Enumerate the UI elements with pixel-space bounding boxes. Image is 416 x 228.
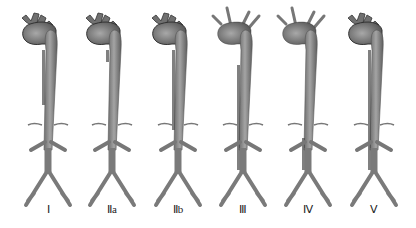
type-label: Ⅱa [107, 203, 117, 216]
aorta-type-3 [152, 13, 200, 205]
aorta-type-5 [278, 8, 330, 205]
type-label: Ⅱb [173, 203, 184, 216]
type-label: Ⅴ [370, 203, 378, 216]
aorta-type-2 [86, 13, 134, 205]
aorta-type-4 [213, 8, 265, 205]
type-label: Ⅰ [47, 203, 50, 216]
aorta-type-6 [348, 13, 396, 205]
aorta-diagram [0, 0, 416, 228]
type-label: Ⅲ [239, 203, 247, 216]
type-label: Ⅳ [303, 203, 313, 216]
aorta-type-1 [22, 13, 70, 205]
